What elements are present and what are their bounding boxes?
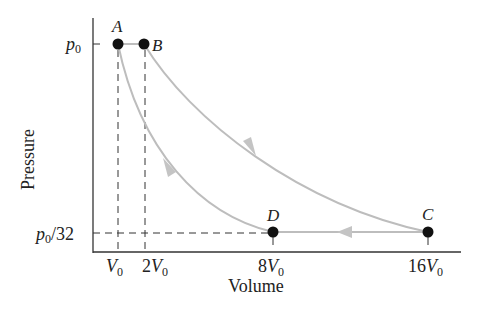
pv-diagram: A B C D p0 p0/32 V0 2V0 8V0 16V0 Volume … bbox=[0, 0, 479, 313]
label-a: A bbox=[111, 17, 123, 36]
xtick-label-2v0: 2V0 bbox=[142, 256, 168, 279]
ytick-label-p0: p0 bbox=[64, 34, 81, 56]
x-axis-title: Volume bbox=[228, 276, 284, 296]
xtick-label-16v0: 16V0 bbox=[408, 256, 443, 279]
point-c bbox=[423, 227, 434, 238]
point-b bbox=[139, 39, 150, 50]
point-a bbox=[113, 39, 124, 50]
point-d bbox=[268, 227, 279, 238]
y-axis-title: Pressure bbox=[18, 129, 38, 190]
label-c: C bbox=[422, 205, 434, 224]
xtick-label-v0: V0 bbox=[106, 256, 123, 279]
path-b-c bbox=[144, 44, 428, 232]
ytick-label-p0-32: p0/32 bbox=[34, 224, 74, 246]
arrow-c-d-icon bbox=[337, 226, 352, 238]
label-d: D bbox=[266, 206, 280, 225]
label-b: B bbox=[152, 36, 163, 55]
cycle-paths bbox=[118, 44, 428, 232]
